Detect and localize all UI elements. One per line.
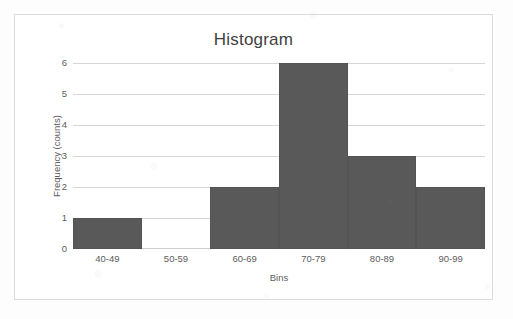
bar-slot-80-89 — [348, 63, 417, 249]
y-tick-label-5: 5 — [45, 89, 67, 99]
x-tick-label-80-89: 80-89 — [348, 253, 417, 264]
chart-frame: Histogram Frequency (counts) 6 5 4 3 2 1… — [14, 14, 493, 300]
y-axis-title-container: Frequency (counts) — [27, 63, 43, 249]
bar-slot-60-69 — [210, 63, 279, 249]
bar-60-69[interactable] — [210, 187, 279, 249]
x-tick-label-90-99: 90-99 — [416, 253, 485, 264]
bars-layer — [73, 63, 485, 249]
x-tick-label-40-49: 40-49 — [73, 253, 142, 264]
bar-40-49[interactable] — [73, 218, 142, 249]
bar-slot-70-79 — [279, 63, 348, 249]
bar-slot-90-99 — [416, 63, 485, 249]
plot-area — [73, 63, 485, 249]
y-tick-label-2: 2 — [45, 182, 67, 192]
bar-90-99[interactable] — [416, 187, 485, 249]
y-axis-tick-labels: 6 5 4 3 2 1 0 — [45, 63, 67, 249]
bar-slot-50-59 — [142, 63, 211, 249]
bar-80-89[interactable] — [348, 156, 417, 249]
chart-title: Histogram — [15, 30, 492, 50]
bar-slot-40-49 — [73, 63, 142, 249]
bar-70-79[interactable] — [279, 63, 348, 249]
y-tick-label-1: 1 — [45, 213, 67, 223]
x-tick-label-60-69: 60-69 — [210, 253, 279, 264]
x-tick-label-70-79: 70-79 — [279, 253, 348, 264]
y-tick-label-0: 0 — [45, 244, 67, 254]
x-axis-tick-labels: 40-49 50-59 60-69 70-79 80-89 90-99 — [73, 253, 485, 264]
y-tick-label-4: 4 — [45, 120, 67, 130]
y-tick-label-3: 3 — [45, 151, 67, 161]
x-axis-title: Bins — [73, 272, 485, 283]
y-tick-label-6: 6 — [45, 58, 67, 68]
x-tick-label-50-59: 50-59 — [142, 253, 211, 264]
